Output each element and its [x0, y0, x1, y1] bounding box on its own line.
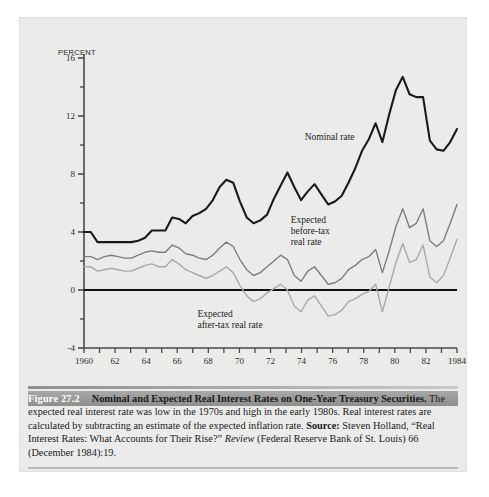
- svg-text:76: 76: [328, 356, 338, 366]
- svg-text:8: 8: [71, 169, 76, 179]
- svg-text:62: 62: [111, 356, 120, 366]
- svg-text:-4: -4: [68, 343, 76, 353]
- y-axis-unit-label: PERCENT: [58, 48, 96, 57]
- svg-text:82: 82: [421, 356, 430, 366]
- svg-text:0: 0: [71, 285, 76, 295]
- svg-text:66: 66: [173, 356, 183, 366]
- annotation-before-tax-real-rate: Expectedbefore-taxreal rate: [291, 215, 330, 248]
- svg-text:68: 68: [204, 356, 214, 366]
- caption-text: Figure 27.2Nominal and Expected Real Int…: [28, 392, 452, 459]
- svg-text:1984: 1984: [448, 356, 466, 366]
- caption-bottom-rule: [28, 467, 458, 469]
- svg-text:72: 72: [266, 356, 275, 366]
- svg-text:78: 78: [359, 356, 369, 366]
- page-root: -40481216196062646668707274767880821984 …: [0, 0, 489, 497]
- svg-text:80: 80: [390, 356, 400, 366]
- caption-review-italic: Review: [225, 433, 255, 444]
- svg-text:4: 4: [71, 227, 76, 237]
- figure-caption: Figure 27.2Nominal and Expected Real Int…: [20, 386, 466, 471]
- svg-text:1960: 1960: [75, 356, 94, 366]
- figure-panel: -40481216196062646668707274767880821984 …: [20, 18, 466, 471]
- svg-text:12: 12: [66, 111, 75, 121]
- svg-text:64: 64: [142, 356, 152, 366]
- annotation-after-tax-real-rate: Expectedafter-tax real rate: [197, 309, 262, 331]
- chart-area: -40481216196062646668707274767880821984 …: [20, 18, 466, 380]
- annotation-nominal-rate: Nominal rate: [305, 132, 355, 143]
- caption-title: Nominal and Expected Real Interest Rates…: [92, 393, 427, 404]
- caption-source-label: Source:: [306, 420, 340, 431]
- caption-top-rule: [28, 386, 458, 389]
- svg-text:70: 70: [235, 356, 245, 366]
- figure-number: Figure 27.2: [28, 393, 80, 404]
- svg-text:74: 74: [297, 356, 307, 366]
